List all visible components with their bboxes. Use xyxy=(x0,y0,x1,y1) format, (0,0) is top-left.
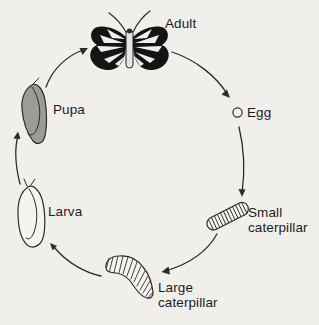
arrow-small-to-large-caterpillar-icon xyxy=(162,234,218,275)
adult-label: Adult xyxy=(165,16,196,31)
arrow-large-caterpillar-to-larva-icon xyxy=(50,243,101,276)
arrow-larva-to-pupa-icon xyxy=(14,132,21,185)
large-caterpillar-label-line2: caterpillar xyxy=(158,295,218,310)
larva-icon xyxy=(18,179,45,247)
diagram-canvas: Adult Egg Small caterpillar Large caterp… xyxy=(0,0,319,325)
small-caterpillar-label-line2: caterpillar xyxy=(248,220,308,235)
egg-icon xyxy=(233,108,242,117)
butterfly-icon xyxy=(90,11,169,70)
arrow-adult-to-egg-icon xyxy=(172,52,230,98)
pupa-icon xyxy=(22,78,47,143)
small-caterpillar-label-line1: Small xyxy=(248,205,282,220)
pupa-label: Pupa xyxy=(53,102,85,117)
arrow-egg-to-small-caterpillar-icon xyxy=(239,127,246,197)
large-caterpillar-icon xyxy=(106,256,153,298)
egg-label: Egg xyxy=(247,105,271,120)
life-cycle-diagram: Adult Egg Small caterpillar Large caterp… xyxy=(0,0,319,325)
larva-label: Larva xyxy=(48,204,83,219)
small-caterpillar-icon xyxy=(205,200,251,232)
large-caterpillar-label-line1: Large xyxy=(158,280,193,295)
arrow-pupa-to-adult-icon xyxy=(46,48,88,87)
